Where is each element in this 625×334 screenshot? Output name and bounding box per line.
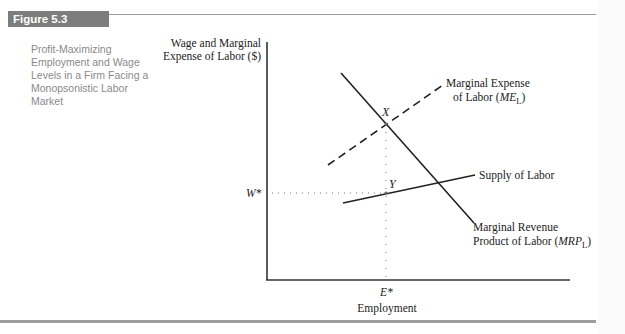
mrp-curve-label-line2: Product of Labor (MRPL): [473, 235, 591, 250]
mrp-curve-label-line1: Marginal Revenue: [473, 221, 558, 234]
me-curve-label-line2: of Labor (MEL): [453, 91, 525, 106]
point-x-label: X: [381, 105, 390, 119]
employment-tick-label: E*: [379, 286, 393, 298]
monopsony-diagram: Wage and Marginal Expense of Labor ($) X…: [0, 0, 625, 334]
me-curve-label-line1: Marginal Expense: [446, 77, 530, 90]
wage-tick-label: W*: [246, 187, 262, 199]
bottom-rule: [0, 320, 596, 323]
supply-curve-label: Supply of Labor: [479, 169, 555, 182]
y-axis-label-line2: Expense of Labor ($): [163, 50, 261, 63]
point-y-marker: [384, 191, 387, 194]
point-y-label: Y: [389, 177, 397, 191]
y-axis-label-line1: Wage and Marginal: [171, 37, 261, 50]
supply-curve: [343, 175, 475, 203]
point-x-marker: [384, 122, 387, 125]
x-axis-label: Employment: [357, 302, 417, 315]
